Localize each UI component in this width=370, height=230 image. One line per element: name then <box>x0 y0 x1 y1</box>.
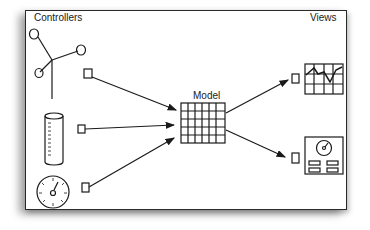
dial-icon <box>37 176 69 208</box>
dial-arrow <box>89 138 174 187</box>
cylinder-port <box>78 125 85 133</box>
cylinder-gauge-icon <box>45 113 63 165</box>
joystick-port <box>84 69 92 78</box>
dial-port <box>82 183 89 192</box>
chart-view-arrow <box>226 80 288 113</box>
dashboard-icon <box>305 137 343 174</box>
cylinder-arrow <box>85 125 174 129</box>
dashboard-view-port <box>292 153 299 163</box>
model-grid-icon <box>181 103 225 143</box>
dashboard-view-arrow <box>226 130 285 157</box>
joystick-arrow <box>92 77 176 110</box>
diagram-canvas <box>0 0 370 230</box>
joystick-icon <box>30 29 86 99</box>
chart-view-port <box>292 74 299 83</box>
line-chart-icon <box>305 64 343 94</box>
